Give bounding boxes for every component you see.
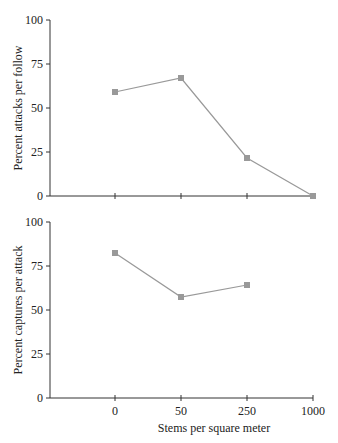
bottom-chart: 100 75 50 25 0 0 50 250 1000 Stems per s… — [11, 215, 325, 435]
bottom-marker-50 — [178, 294, 184, 300]
xtick-0: 0 — [112, 404, 118, 418]
bottom-y-axis-label: Percent captures per attack — [11, 246, 25, 375]
top-series-line — [115, 78, 313, 196]
top-ytick-0: 0 — [37, 189, 43, 203]
bottom-ytick-100: 100 — [25, 215, 43, 229]
top-ytick-50: 50 — [31, 101, 43, 115]
top-ytick-100: 100 — [25, 13, 43, 27]
bottom-ytick-50: 50 — [31, 303, 43, 317]
top-chart: 100 75 50 25 0 Percent attacks per follo… — [11, 13, 316, 203]
top-marker-50 — [178, 75, 184, 81]
top-ytick-75: 75 — [31, 57, 43, 71]
x-axis-label: Stems per square meter — [158, 421, 270, 435]
top-y-ticks — [46, 20, 50, 196]
xtick-1000: 1000 — [301, 404, 325, 418]
bottom-marker-0 — [112, 250, 118, 256]
top-ytick-25: 25 — [31, 145, 43, 159]
top-marker-0 — [112, 89, 118, 95]
bottom-marker-250 — [244, 282, 250, 288]
bottom-ytick-0: 0 — [37, 391, 43, 405]
top-marker-1000 — [310, 193, 316, 199]
bottom-ytick-75: 75 — [31, 259, 43, 273]
figure: 100 75 50 25 0 Percent attacks per follo… — [0, 0, 338, 443]
xtick-50: 50 — [175, 404, 187, 418]
bottom-series-line — [115, 253, 247, 297]
bottom-y-ticks — [46, 222, 50, 398]
bottom-ytick-25: 25 — [31, 347, 43, 361]
top-y-axis-label: Percent attacks per follow — [11, 45, 25, 170]
top-marker-250 — [244, 155, 250, 161]
xtick-250: 250 — [238, 404, 256, 418]
